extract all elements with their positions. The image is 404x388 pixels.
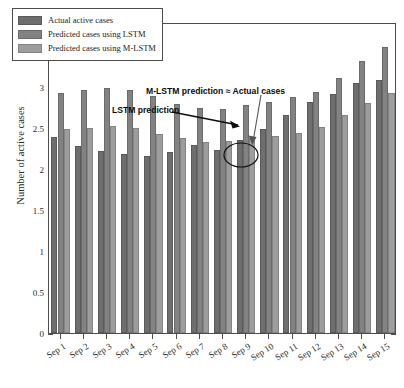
x-tick-mark [60,334,61,339]
x-tick-mark [129,334,130,339]
y-tick-label: 3 [14,83,44,93]
x-tick-mark [199,334,200,339]
bar-sep-12-series-2 [319,127,325,333]
y-tick-label: 1.5 [14,206,44,216]
bar-sep-6-series-2 [180,138,186,333]
bar-sep-3-series-2 [110,126,116,333]
x-tick-mark [361,334,362,339]
y-axis-title: Number of active cases [15,51,26,261]
bar-sep-10-series-2 [272,136,278,333]
legend-label: Actual active cases [48,16,113,25]
x-tick-mark [384,334,385,339]
x-tick-mark [268,334,269,339]
y-tick-mark [48,334,53,335]
bars-layer [49,24,395,333]
bar-sep-2-series-2 [87,128,93,333]
y-tick-label: 2.5 [14,124,44,134]
x-tick-mark [338,334,339,339]
bar-sep-13-series-2 [342,115,348,333]
bar-sep-11-series-2 [296,133,302,334]
bar-sep-7-series-2 [203,142,209,334]
x-tick-mark [106,334,107,339]
y-tick-label: 2 [14,165,44,175]
legend-swatch-icon [18,16,42,25]
x-tick-mark [292,334,293,339]
bar-sep-1-series-2 [64,129,70,333]
bar-sep-15-series-2 [388,93,394,333]
bar-sep-5-series-2 [156,134,162,333]
y-tick-label: 0.5 [14,288,44,298]
x-tick-mark [315,334,316,339]
lstm-annotation: LSTM prediction [112,105,179,115]
mlstm-actual-annotation: M-LSTM prediction ≈ Actual cases [146,86,285,96]
bar-sep-14-series-2 [365,103,371,333]
bar-sep-8-series-2 [226,141,232,333]
x-tick-mark [152,334,153,339]
legend-entry-0[interactable]: Actual active cases [18,14,156,27]
figure-canvas: ×104 Number of active cases 00.511.522.5… [0,0,404,388]
x-tick-mark [83,334,84,339]
chart-legend: Actual active casesPredicted cases using… [12,8,163,61]
plot-area [48,23,396,334]
legend-swatch-icon [18,44,42,53]
bar-sep-9-series-2 [249,138,255,333]
legend-label: Predicted cases using M-LSTM [48,44,156,53]
legend-swatch-icon [18,30,42,39]
legend-entry-1[interactable]: Predicted cases using LSTM [18,28,156,41]
legend-entry-2[interactable]: Predicted cases using M-LSTM [18,42,156,55]
y-tick-mark-right [391,334,396,335]
x-tick-mark [176,334,177,339]
legend-label: Predicted cases using LSTM [48,30,146,39]
x-tick-mark [222,334,223,339]
x-tick-mark [245,334,246,339]
y-tick-label: 0 [14,329,44,339]
bar-sep-4-series-2 [133,128,139,333]
y-tick-label: 1 [14,247,44,257]
